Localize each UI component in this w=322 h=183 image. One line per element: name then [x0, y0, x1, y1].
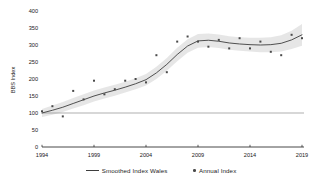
annual-index-point — [197, 41, 199, 43]
annual-index-point — [249, 47, 251, 49]
legend-label-smoothed: Smoothed Index Wales — [102, 167, 168, 174]
annual-index-point — [155, 54, 157, 56]
x-axis-tick-label: 1999 — [88, 152, 100, 158]
y-axis-tick-label: 200 — [29, 76, 38, 82]
annual-index-point — [83, 98, 85, 100]
y-axis-tick-label: 100 — [29, 110, 38, 116]
y-axis-title: BBS Index — [10, 67, 16, 94]
annual-index-point — [124, 80, 126, 82]
annual-index-point — [135, 78, 137, 80]
y-axis-tick-label: 50 — [32, 127, 38, 133]
annual-index-point — [228, 47, 230, 49]
chart-legend: Smoothed Index Wales Annual Index — [0, 167, 322, 174]
x-axis-tick-label: 2009 — [192, 152, 204, 158]
y-axis-tick-label: 300 — [29, 42, 38, 48]
x-axis-tick-label: 2014 — [244, 152, 256, 158]
y-axis-tick-label: 250 — [29, 59, 38, 65]
dot-symbol-icon — [193, 169, 196, 172]
annual-index-point — [187, 36, 189, 38]
tick-labels-group: 1994199920042009201420190501001502002503… — [29, 8, 309, 158]
annual-index-point — [176, 41, 178, 43]
x-axis-tick-label: 2019 — [296, 152, 308, 158]
bbs-index-chart: 1994199920042009201420190501001502002503… — [0, 0, 322, 183]
chart-canvas: 1994199920042009201420190501001502002503… — [0, 0, 322, 164]
x-axis-tick-label: 2004 — [140, 152, 152, 158]
annual-index-point — [103, 93, 105, 95]
annual-index-point — [291, 34, 293, 36]
annual-index-point — [218, 39, 220, 41]
annual-index-point — [207, 46, 209, 48]
annual-index-point — [270, 51, 272, 53]
annual-index-point — [51, 105, 53, 107]
annual-index-point — [166, 71, 168, 73]
annual-index-point — [41, 110, 43, 112]
y-axis-tick-label: 350 — [29, 25, 38, 31]
annual-index-point — [145, 81, 147, 83]
annual-index-point — [93, 80, 95, 82]
y-axis-tick-label: 150 — [29, 93, 38, 99]
x-axis-tick-label: 1994 — [36, 152, 48, 158]
annual-index-point — [239, 37, 241, 39]
legend-item-smoothed: Smoothed Index Wales — [86, 167, 168, 174]
legend-item-annual: Annual Index — [193, 167, 236, 174]
legend-label-annual: Annual Index — [199, 167, 236, 174]
confidence-band-group — [42, 24, 302, 117]
axes-group — [42, 145, 304, 147]
annual-index-point — [62, 115, 64, 117]
annual-index-point — [114, 88, 116, 90]
y-axis-tick-label: 400 — [29, 8, 38, 14]
annual-index-point — [280, 54, 282, 56]
annual-index-point — [259, 41, 261, 43]
annual-index-point — [301, 37, 303, 39]
confidence-band-area — [42, 24, 302, 117]
annual-index-point — [72, 90, 74, 92]
line-symbol-icon — [86, 170, 99, 171]
y-axis-tick-label: 0 — [35, 144, 38, 150]
